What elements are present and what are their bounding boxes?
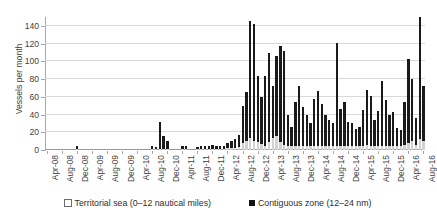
x-tickmark-Apr-09 xyxy=(92,151,93,154)
bar-stack xyxy=(114,17,116,150)
bar-segment-territorial-sea xyxy=(302,146,304,150)
bar-segment-contiguous-zone xyxy=(238,135,240,147)
legend-swatch-territorial-sea xyxy=(64,199,72,207)
x-tick-label-Apr-14: Apr-14 xyxy=(321,155,331,180)
x-tickmark-Aug-12 xyxy=(243,151,244,154)
bar-segment-contiguous-zone xyxy=(287,115,289,147)
y-tick-label-20: 20 xyxy=(29,128,39,137)
bar-segment-territorial-sea xyxy=(238,147,240,150)
x-tick-label-Aug-08: Aug-08 xyxy=(65,155,75,182)
bar-segment-territorial-sea xyxy=(306,146,308,150)
bar-segment-contiguous-zone xyxy=(257,76,259,142)
bar-segment-territorial-sea xyxy=(272,138,274,150)
bar-segment-territorial-sea xyxy=(358,146,360,150)
legend-label-territorial-sea: Territorial sea (0–12 nautical miles) xyxy=(75,198,211,208)
bar-stack xyxy=(174,17,176,150)
x-tick-label-Apr-15: Apr-15 xyxy=(366,155,376,180)
bar-segment-territorial-sea xyxy=(226,148,228,150)
x-tickmark-Apr-08 xyxy=(47,151,48,154)
bar-segment-contiguous-zone xyxy=(362,110,364,145)
legend-item-contiguous-zone: Contiguous zone (12–24 nm) xyxy=(249,198,371,208)
bar-stack xyxy=(98,17,100,150)
bar-segment-territorial-sea xyxy=(215,149,217,150)
bar-segment-territorial-sea xyxy=(155,149,157,150)
bar-segment-territorial-sea xyxy=(298,146,300,150)
x-tick-label-Apr-10: Apr-10 xyxy=(141,155,151,180)
bar-stack xyxy=(189,17,191,150)
x-tickmark-Apr-10 xyxy=(137,151,138,154)
bar-segment-contiguous-zone xyxy=(370,96,372,146)
x-tick-label-Dec-14: Dec-14 xyxy=(351,155,361,182)
bar-stack xyxy=(373,17,375,150)
bar-segment-contiguous-zone xyxy=(279,46,281,142)
x-tick-label-Aug-09: Aug-09 xyxy=(110,155,120,182)
bar-stack xyxy=(339,17,341,150)
bar-segment-contiguous-zone xyxy=(385,100,387,146)
bar-stack xyxy=(181,17,183,150)
bar-segment-contiguous-zone xyxy=(373,120,375,147)
bar-stack xyxy=(411,17,413,150)
x-tick-label-Aug-10: Aug-10 xyxy=(156,155,166,182)
x-tick-label-Apr-11: Apr-11 xyxy=(186,155,196,180)
bar-stack xyxy=(200,17,202,150)
bar-segment-contiguous-zone xyxy=(253,24,255,141)
bar-segment-contiguous-zone xyxy=(355,129,357,147)
bar-segment-territorial-sea xyxy=(162,149,164,150)
bar-segment-territorial-sea xyxy=(76,149,78,150)
bar-segment-territorial-sea xyxy=(328,146,330,150)
bar-segment-territorial-sea xyxy=(264,146,266,150)
bar-segment-contiguous-zone xyxy=(422,86,424,141)
x-tickmark-Apr-15 xyxy=(363,151,364,154)
bar-stack xyxy=(321,17,323,150)
bar-stack xyxy=(185,17,187,150)
bar-segment-territorial-sea xyxy=(242,143,244,150)
bar-stack xyxy=(57,17,59,150)
bar-segment-territorial-sea xyxy=(166,149,168,150)
bar-stack xyxy=(358,17,360,150)
bar-stack xyxy=(298,17,300,150)
bar-segment-territorial-sea xyxy=(400,146,402,150)
bar-segment-territorial-sea xyxy=(336,146,338,150)
bar-segment-territorial-sea xyxy=(219,149,221,150)
bar-stack xyxy=(388,17,390,150)
bar-segment-contiguous-zone xyxy=(332,123,334,146)
bar-segment-territorial-sea xyxy=(230,148,232,150)
bar-stack xyxy=(106,17,108,150)
bar-segment-territorial-sea xyxy=(407,143,409,150)
y-tick-label-140: 140 xyxy=(25,21,39,30)
bar-segment-territorial-sea xyxy=(294,146,296,150)
bar-stack xyxy=(238,17,240,150)
bar-segment-contiguous-zone xyxy=(272,86,274,138)
bar-stack xyxy=(234,17,236,150)
bar-segment-territorial-sea xyxy=(370,146,372,150)
bar-stack xyxy=(407,17,409,150)
bar-segment-territorial-sea xyxy=(208,149,210,150)
bar-segment-territorial-sea xyxy=(385,146,387,150)
bar-stack xyxy=(121,17,123,150)
bar-segment-contiguous-zone xyxy=(381,81,383,147)
bar-segment-territorial-sea xyxy=(200,149,202,150)
bar-segment-contiguous-zone xyxy=(230,141,232,148)
bar-segment-territorial-sea xyxy=(279,142,281,150)
x-tickmark-Aug-14 xyxy=(333,151,334,154)
bar-stack xyxy=(162,17,164,150)
x-tickmark-Dec-10 xyxy=(167,151,168,154)
bar-segment-contiguous-zone xyxy=(260,97,262,144)
bar-stack xyxy=(242,17,244,150)
bar-segment-territorial-sea xyxy=(196,149,198,150)
bar-segment-contiguous-zone xyxy=(290,127,292,147)
legend-item-territorial-sea: Territorial sea (0–12 nautical miles) xyxy=(64,198,211,208)
x-tickmark-Apr-13 xyxy=(273,151,274,154)
bar-segment-territorial-sea xyxy=(324,146,326,150)
x-tick-label-Apr-08: Apr-08 xyxy=(50,155,60,180)
bar-stack xyxy=(144,17,146,150)
bar-stack xyxy=(332,17,334,150)
legend-swatch-contiguous-zone xyxy=(249,200,255,206)
bar-segment-contiguous-zone xyxy=(264,76,266,145)
x-tick-label-Dec-13: Dec-13 xyxy=(306,155,316,182)
x-tickmark-Dec-09 xyxy=(122,151,123,154)
bar-segment-contiguous-zone xyxy=(245,92,247,142)
bar-segment-contiguous-zone xyxy=(339,109,341,146)
bar-segment-contiguous-zone xyxy=(313,99,315,145)
bar-segment-territorial-sea xyxy=(339,146,341,150)
